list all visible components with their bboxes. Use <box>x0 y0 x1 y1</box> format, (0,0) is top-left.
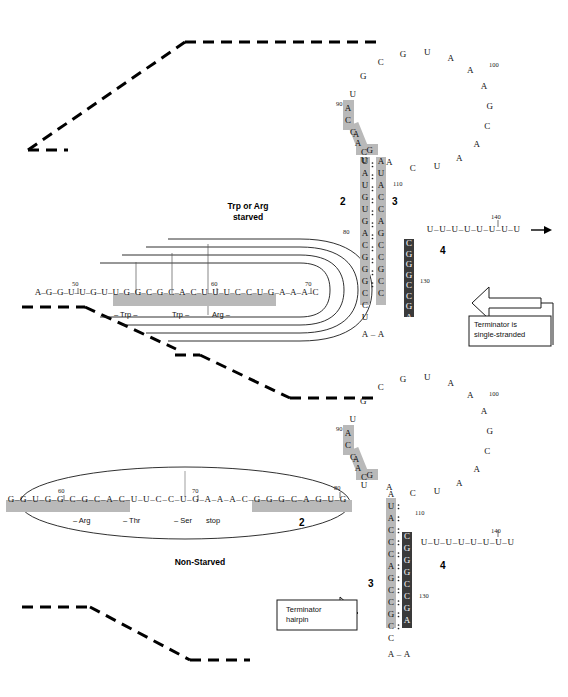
region-label-4-bottom: 4 <box>440 560 446 571</box>
nucleotide-base: A <box>403 650 412 659</box>
nucleotide-base: U <box>432 162 441 171</box>
nucleotide-base: G <box>361 277 370 286</box>
nucleotide-base: G <box>387 610 396 619</box>
nucleotide-base: G <box>377 229 386 238</box>
figure-canvas: Trp or Arg starved A–G–G–U–U–G–U–U–G–G–C… <box>0 0 568 697</box>
nucleotide-base: C <box>376 58 385 67</box>
nucleotide-base: A <box>352 455 361 464</box>
residue-number-110-top: 110 <box>393 180 403 187</box>
residue-number-80-bottom: 80 <box>334 484 341 491</box>
residue-number-70-bottom: 70 <box>192 487 199 494</box>
nucleotide-base: C <box>405 292 414 301</box>
nucleotide-base: G <box>485 427 494 436</box>
nucleotide-base: A <box>377 217 386 226</box>
nucleotide-base: G <box>361 217 370 226</box>
nucleotide-base: U <box>360 481 369 490</box>
nucleotide-base: G <box>377 265 386 274</box>
region-label-3-top: 3 <box>392 196 398 207</box>
residue-number-50: 50 <box>72 280 79 287</box>
codon-label-ser-bottom: – Ser <box>174 516 192 525</box>
codon-label-trp-1: – Trp – <box>114 310 137 319</box>
residue-number-130-bottom: 130 <box>419 592 429 599</box>
dashed-mrna-bottom <box>175 355 378 398</box>
residue-number-130-top: 130 <box>420 277 430 284</box>
residue-number-100-top: 100 <box>489 61 499 68</box>
codon-label-thr-bottom: – Thr <box>123 516 140 525</box>
callout-bottom-line1: Terminator <box>286 605 356 615</box>
nucleotide-base: A <box>403 616 412 625</box>
nucleotide-base: C <box>377 253 386 262</box>
nucleotide-base: U <box>512 225 521 234</box>
nucleotide-base: G <box>399 50 408 59</box>
nucleotide-base: U <box>361 205 370 214</box>
nucleotide-base: G <box>405 260 414 269</box>
nucleotide-base: C <box>483 447 492 456</box>
nucleotide-base: G <box>361 193 370 202</box>
panel-label-starved-line2: starved <box>188 212 308 223</box>
region-label-3-bottom: 3 <box>368 578 374 589</box>
nucleotide-base: G <box>359 72 368 81</box>
residue-number-100-bottom: 100 <box>489 390 499 397</box>
panel-label-starved: Trp or Arg starved <box>188 201 308 223</box>
nucleotide-base: C <box>377 193 386 202</box>
callout-top-line2: single-stranded <box>474 330 550 340</box>
nucleotide-base: U <box>423 373 432 382</box>
nucleotide-base: G <box>339 495 348 504</box>
nucleotide-base: A <box>479 82 488 91</box>
callout-bottom-line2: hairpin <box>286 615 356 625</box>
nucleotide-base: A <box>466 391 475 400</box>
nucleotide-base: A <box>344 104 353 113</box>
nucleotide-base: A <box>455 154 464 163</box>
nucleotide-base: C <box>483 122 492 131</box>
nucleotide-base: A <box>361 229 370 238</box>
nucleotide-base: A <box>361 169 370 178</box>
dashed-mrna-top <box>28 42 378 150</box>
nucleotide-base: U <box>432 487 441 496</box>
nucleotide-base: C <box>403 592 412 601</box>
nucleotide-base: A <box>472 465 481 474</box>
residue-number-140-top: 140 <box>491 213 501 220</box>
nucleotide-base: G <box>485 102 494 111</box>
nucleotide-base: G <box>403 556 412 565</box>
nucleotide-base: U <box>348 415 357 424</box>
nucleotide-base: U <box>423 48 432 57</box>
basepair-dots-2-3-top <box>372 162 374 287</box>
nucleotide-base: A <box>479 407 488 416</box>
codon-label-stop-bottom: stop <box>206 516 220 525</box>
dashed-mrna-top-lower <box>22 307 176 349</box>
residue-number-90-bottom: 90 <box>336 425 343 432</box>
nucleotide-base: C <box>403 532 412 541</box>
residue-number-60-bottom: 60 <box>58 487 65 494</box>
nucleotide-base: A <box>405 313 414 322</box>
diagram-vector-layer <box>0 0 568 697</box>
nucleotide-base: A <box>352 130 361 139</box>
nucleotide-base: A <box>385 158 394 167</box>
nucleotide-base: C <box>387 622 396 631</box>
codon-label-trp-2: Trp – <box>172 310 189 319</box>
nucleotide-base: A <box>446 54 455 63</box>
callout-top-line1: Terminator is <box>474 320 550 330</box>
nucleotide-base: A <box>377 157 386 166</box>
nucleotide-base: C <box>405 281 414 290</box>
nucleotide-base: U <box>506 538 515 547</box>
nucleotide-base: G <box>405 302 414 311</box>
panel-label-non-starved: Non-Starved <box>145 557 255 568</box>
nucleotide-base: C <box>405 239 414 248</box>
nucleotide-base: C <box>403 580 412 589</box>
nucleotide-base: G <box>403 544 412 553</box>
codon-label-arg-bottom: – Arg <box>73 516 91 525</box>
nucleotide-base: C <box>376 383 385 392</box>
nucleotide-base: C <box>387 526 396 535</box>
nucleotide-base: C <box>377 205 386 214</box>
nucleotide-base: G <box>387 574 396 583</box>
nucleotide-base: G <box>399 375 408 384</box>
nucleotide-base: A <box>377 181 386 190</box>
panel-label-starved-line1: Trp or Arg <box>188 201 308 212</box>
nucleotide-base: C <box>408 489 417 498</box>
nucleotide-base: A <box>466 66 475 75</box>
nucleotide-base: C <box>387 586 396 595</box>
nucleotide-base: C <box>344 441 353 450</box>
nucleotide-base: G <box>405 271 414 280</box>
residue-number-70-top: 70 <box>305 280 312 287</box>
nucleotide-base: A <box>387 490 396 499</box>
